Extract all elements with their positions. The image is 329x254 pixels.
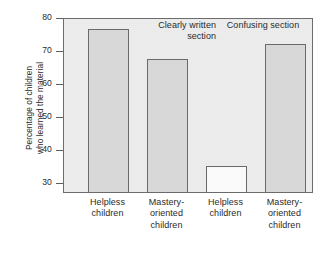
y-tick-label: 40 — [34, 145, 52, 154]
y-tick-label: 50 — [34, 112, 52, 121]
section-heading-clearly-written: Clearly written section — [120, 20, 216, 42]
y-tick-label: 60 — [34, 79, 52, 88]
section-heading-confusing: Confusing section — [213, 20, 313, 31]
x-category-label: Mastery- oriented children — [251, 197, 319, 231]
bar — [265, 44, 306, 193]
x-category-label: Helpless children — [74, 197, 142, 220]
y-tick-label: 30 — [34, 178, 52, 187]
bar — [206, 166, 247, 193]
y-tick-label: 70 — [34, 46, 52, 55]
bar — [88, 29, 129, 193]
y-tick-label: 80 — [34, 13, 52, 22]
bar — [147, 59, 188, 193]
y-axis-label-line-1: Percentage of children — [24, 62, 35, 154]
x-category-label: Helpless children — [192, 197, 260, 220]
bar-chart-figure: Percentage of children who learned the m… — [0, 0, 329, 254]
x-category-label: Mastery- oriented children — [133, 197, 201, 231]
plot-area — [63, 18, 313, 193]
y-axis-label-line-2: who learned the material — [35, 62, 46, 154]
